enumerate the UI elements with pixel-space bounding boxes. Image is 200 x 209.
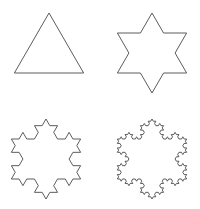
figure-background	[0, 0, 200, 209]
koch-snowflake-figure	[0, 0, 200, 209]
koch-snowflake-canvas	[0, 0, 200, 209]
